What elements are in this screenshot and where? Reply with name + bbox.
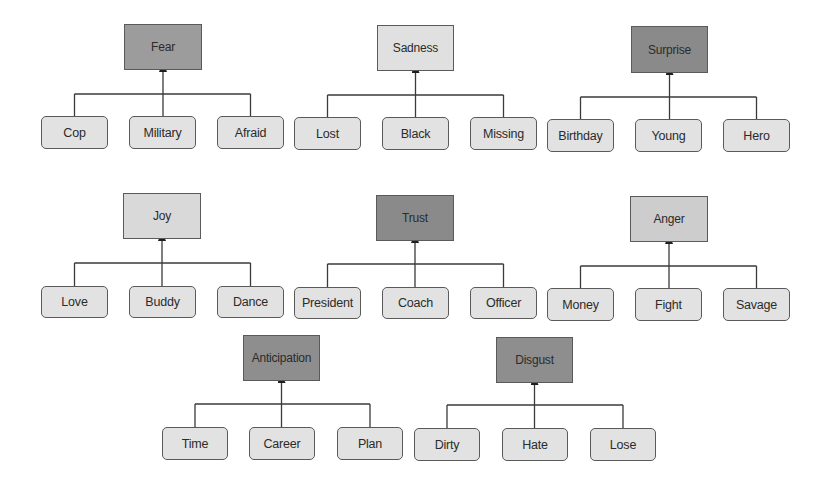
emotion-word-node: Savage: [723, 288, 790, 321]
emotion-word-node: Coach: [382, 287, 449, 319]
emotion-word-node: Hate: [502, 428, 568, 461]
emotion-category-node: Fear: [124, 24, 202, 70]
emotion-category-node: Sadness: [377, 25, 454, 71]
emotion-word-node: Birthday: [547, 119, 614, 152]
emotion-category-node: Joy: [123, 193, 201, 239]
emotion-category-node: Anticipation: [243, 335, 320, 381]
emotion-word-node: Career: [249, 427, 315, 460]
emotion-word-node: Dance: [217, 286, 284, 318]
emotion-word-node: Time: [162, 427, 228, 460]
emotion-word-node: Cop: [41, 116, 108, 149]
emotion-word-node: Money: [547, 288, 614, 321]
connector-lines: [0, 0, 824, 487]
emotion-category-node: Trust: [376, 195, 454, 241]
emotion-word-node: Officer: [470, 287, 537, 319]
emotion-word-node: Missing: [470, 117, 537, 150]
emotion-word-node: Lose: [590, 428, 656, 461]
emotion-word-node: Young: [635, 119, 702, 152]
emotion-word-node: Love: [41, 286, 108, 318]
emotion-category-node: Surprise: [631, 26, 708, 73]
emotion-word-node: Black: [382, 117, 449, 150]
emotion-word-node: Fight: [635, 288, 702, 321]
emotion-category-node: Anger: [630, 196, 708, 242]
emotion-hierarchy-diagram: FearCopMilitaryAfraidSadnessLostBlackMis…: [0, 0, 824, 487]
emotion-word-node: Plan: [337, 427, 403, 460]
emotion-word-node: Buddy: [129, 286, 196, 318]
emotion-word-node: Afraid: [217, 116, 284, 149]
emotion-word-node: Dirty: [414, 428, 480, 461]
emotion-category-node: Disgust: [496, 337, 573, 383]
emotion-word-node: Lost: [294, 117, 361, 150]
emotion-word-node: Military: [129, 116, 196, 149]
emotion-word-node: President: [294, 287, 361, 319]
emotion-word-node: Hero: [723, 119, 790, 152]
